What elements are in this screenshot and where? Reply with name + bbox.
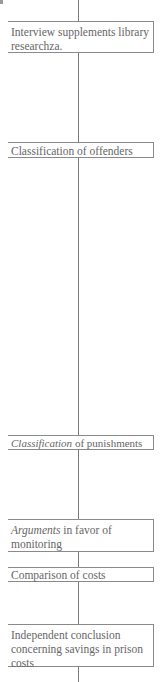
flow-node-interview: Interview supplements library researchza… [8,21,154,53]
connector-line [78,666,79,682]
connector-line [78,581,79,624]
connector-line [78,157,79,435]
connector-line [78,449,79,519]
node-text: Classification of offenders [11,145,133,157]
node-text: of punishments [72,437,142,449]
flow-node-comparison-costs: Comparison of costs [8,567,154,582]
node-text: Independent conclusion concerning saving… [11,629,143,669]
flow-node-independent-conclusion: Independent conclusion concerning saving… [8,624,154,667]
node-italic-text: Arguments [11,524,60,536]
node-text: Interview supplements library researchza… [11,26,149,52]
node-italic-text: Classification [11,437,72,449]
node-text: Comparison of costs [11,569,106,581]
connector-line [78,551,79,567]
connector-line [78,52,79,142]
flow-node-classification-offenders: Classification of offenders [8,142,154,158]
connector-line [78,0,79,21]
flow-node-arguments-monitoring: Arguments in favor of monitoring [8,519,154,552]
flow-node-classification-punishments: Classification of punishments [8,435,154,450]
corner-mark [0,0,3,4]
